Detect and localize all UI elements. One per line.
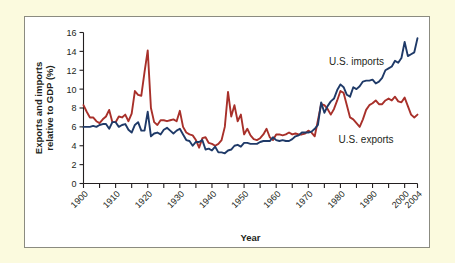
chart-border-frame	[24, 16, 430, 248]
figure-root: 0246810121416 19001910192019301940195019…	[0, 0, 455, 263]
